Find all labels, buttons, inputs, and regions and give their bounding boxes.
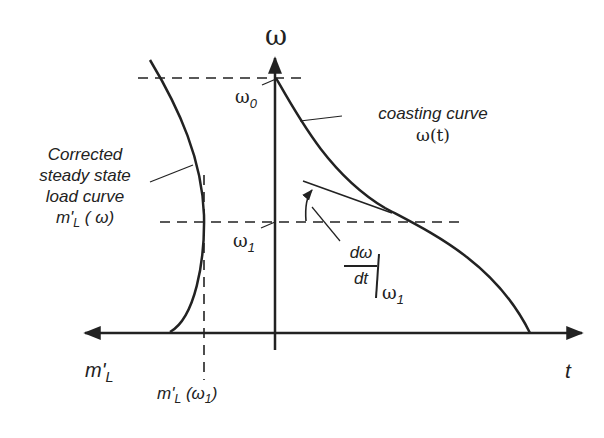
load-line4: m'L ( ω) bbox=[20, 209, 150, 227]
leader-coasting bbox=[300, 116, 342, 121]
mL-axis-label: m'L bbox=[85, 360, 114, 381]
derivative-eval-point: ω1 bbox=[382, 284, 404, 303]
omega1-main: ω bbox=[233, 230, 248, 251]
coasting-line2: ω(t) bbox=[358, 127, 508, 145]
load-at-omega1-label: m'L (ω1) bbox=[157, 385, 217, 403]
load-curve-label: Corrected steady state load curve m'L ( … bbox=[20, 146, 150, 226]
diagram-canvas: ω t m'L ω0 ω1 coasting curve ω(t) Correc… bbox=[0, 0, 604, 438]
omega1-label: ω1 bbox=[233, 232, 255, 251]
omega0-sub: 0 bbox=[250, 96, 257, 111]
derivative-numerator: dω bbox=[343, 244, 379, 262]
load-line3: load curve bbox=[20, 188, 150, 206]
coasting-curve-label: coasting curve ω(t) bbox=[358, 105, 508, 145]
mL-sub: L bbox=[105, 369, 113, 385]
t-axis-label: t bbox=[565, 360, 571, 382]
coasting-line1: coasting curve bbox=[358, 105, 508, 123]
load-curve bbox=[150, 60, 204, 332]
leader-load bbox=[150, 165, 193, 182]
slope-angle-arrow bbox=[306, 190, 312, 221]
leader-omega1 bbox=[261, 222, 275, 228]
derivative-denominator: dt bbox=[343, 270, 379, 288]
omega0-label: ω0 bbox=[235, 88, 257, 107]
leader-derivative bbox=[312, 207, 340, 241]
omega-axis-label: ω bbox=[265, 22, 287, 50]
omega0-main: ω bbox=[235, 86, 250, 107]
load-line1: Corrected bbox=[20, 146, 150, 164]
omega1-sub: 1 bbox=[248, 240, 255, 255]
tangent-line bbox=[303, 181, 392, 213]
load-line2: steady state bbox=[20, 167, 150, 185]
mL-main: m' bbox=[85, 359, 105, 381]
